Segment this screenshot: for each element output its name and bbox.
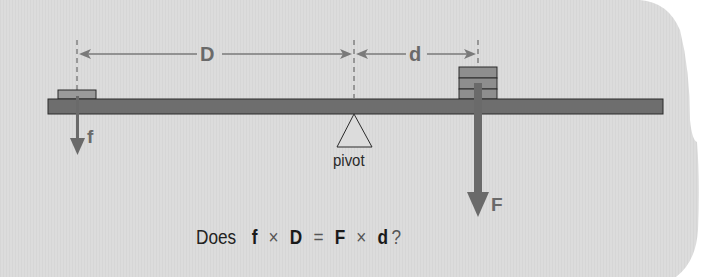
equation-prefix: Does bbox=[196, 226, 236, 249]
balance-equation: Does f × D = F × d ? bbox=[196, 226, 401, 249]
lever-beam bbox=[48, 99, 663, 114]
small-force-label: f bbox=[87, 127, 93, 146]
equation-term-d: d bbox=[378, 226, 389, 249]
equation-multiply-2: × bbox=[356, 226, 366, 249]
diagram-panel: D d f F pivot Does f × D = F × d ? bbox=[0, 0, 726, 277]
equation-term-F: F bbox=[335, 226, 346, 249]
pivot-label: pivot bbox=[333, 152, 365, 169]
equation-term-D: D bbox=[290, 226, 302, 249]
equation-equals: = bbox=[313, 226, 323, 249]
large-force-label: F bbox=[491, 195, 503, 214]
short-distance-label: d bbox=[409, 44, 421, 64]
equation-question-mark: ? bbox=[392, 226, 402, 249]
long-distance-label: D bbox=[200, 44, 214, 64]
equation-term-f: f bbox=[252, 226, 258, 249]
weight-block bbox=[459, 67, 497, 78]
equation-multiply-1: × bbox=[269, 226, 279, 249]
